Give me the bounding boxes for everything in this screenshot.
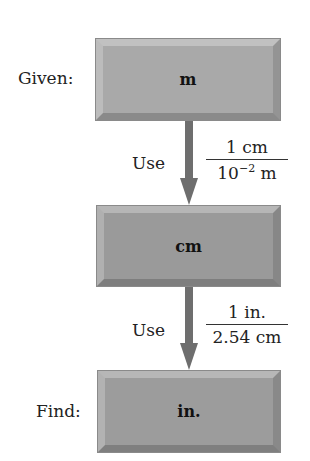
factor-2-numerator: 1 in. [202, 302, 292, 324]
given-unit-box: m [95, 38, 281, 121]
arrow-1-shaft [185, 121, 193, 179]
find-unit-text: in. [177, 402, 200, 421]
intermediate-unit-box: cm [96, 205, 281, 287]
factor-2-denominator: 2.54 cm [202, 325, 292, 347]
given-label: Given: [18, 68, 73, 88]
factor-1-denominator: 10−2 m [202, 160, 292, 183]
factor-1-numerator: 1 cm [202, 137, 292, 159]
conversion-factor-2: 1 in. 2.54 cm [202, 302, 292, 347]
arrow-down-icon [180, 178, 198, 205]
use-label-2: Use [132, 320, 165, 340]
find-label: Find: [36, 401, 81, 421]
use-label-1: Use [132, 153, 165, 173]
arrow-2-shaft [185, 287, 193, 344]
intermediate-unit-text: cm [175, 237, 202, 256]
conversion-factor-1: 1 cm 10−2 m [202, 137, 292, 183]
arrow-down-icon [180, 343, 198, 370]
given-unit-text: m [180, 70, 197, 89]
find-unit-box: in. [97, 370, 281, 453]
